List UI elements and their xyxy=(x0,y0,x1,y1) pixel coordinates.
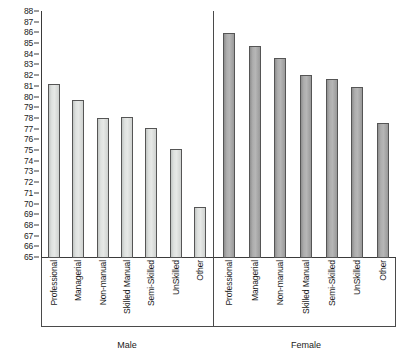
bar xyxy=(97,118,109,258)
category-label: Professional xyxy=(225,260,234,306)
y-axis-tick-label: 72 xyxy=(24,178,33,187)
category-label-slot: Other xyxy=(188,258,212,326)
bar xyxy=(121,117,133,258)
y-axis-tick-mark xyxy=(34,107,39,108)
bar xyxy=(72,100,84,258)
bar-slot xyxy=(293,11,319,258)
category-label: UnSkilled xyxy=(353,260,362,295)
category-label: Other xyxy=(379,260,388,281)
bar xyxy=(326,79,338,258)
category-label: Skilled Manual xyxy=(123,260,132,314)
y-axis-tick-mark xyxy=(34,117,39,118)
y-axis-tick-label: 78 xyxy=(24,114,33,123)
bar xyxy=(48,84,60,258)
bar-slot xyxy=(319,11,345,258)
y-axis-tick-label: 81 xyxy=(24,82,33,91)
bar xyxy=(351,87,363,258)
y-axis-tick-label: 85 xyxy=(24,39,33,48)
y-axis-tick-mark xyxy=(34,203,39,204)
bar xyxy=(377,123,389,258)
y-axis-tick-mark xyxy=(34,192,39,193)
bar-group-female xyxy=(216,11,396,258)
bar-slot xyxy=(188,11,212,258)
category-label-slot: Non-manual xyxy=(91,258,115,326)
category-label-slot: Skilled Manual xyxy=(115,258,139,326)
bar-slot xyxy=(139,11,163,258)
bar-slot xyxy=(267,11,293,258)
bar-slot xyxy=(370,11,396,258)
bar-slot xyxy=(163,11,187,258)
y-axis-tick-mark xyxy=(34,182,39,183)
y-axis-tick-label: 86 xyxy=(24,28,33,37)
y-axis-tick-mark xyxy=(34,224,39,225)
category-label-slot: Managerial xyxy=(66,258,90,326)
label-frame-bottom xyxy=(41,326,396,327)
category-labels-female: ProfessionalManagerialNon-manualSkilled … xyxy=(216,258,396,326)
category-label: Non-manual xyxy=(276,260,285,305)
plot-panel-male xyxy=(42,11,212,258)
y-axis-tick-mark xyxy=(34,128,39,129)
y-axis: 8887868584838281807978777675747372717069… xyxy=(0,0,42,268)
y-axis-tick-label: 75 xyxy=(24,146,33,155)
category-label: Managerial xyxy=(250,260,259,301)
category-label-slot: Professional xyxy=(216,258,242,326)
bar xyxy=(223,33,235,258)
bar-slot xyxy=(91,11,115,258)
y-axis-tick-label: 73 xyxy=(24,167,33,176)
category-label: Professional xyxy=(50,260,59,306)
y-axis-tick-mark xyxy=(34,246,39,247)
bar-slot xyxy=(42,11,66,258)
category-label-slot: UnSkilled xyxy=(345,258,371,326)
y-axis-tick-label: 70 xyxy=(24,199,33,208)
category-label: Managerial xyxy=(74,260,83,301)
y-axis-tick-mark xyxy=(34,139,39,140)
bar-slot xyxy=(66,11,90,258)
y-axis-tick-mark xyxy=(34,214,39,215)
y-axis-tick-mark xyxy=(34,64,39,65)
y-axis-tick-label: 71 xyxy=(24,189,33,198)
bar xyxy=(170,149,182,258)
bar xyxy=(249,46,261,258)
category-label-slot: Semi-Skilled xyxy=(139,258,163,326)
y-axis-tick-label: 80 xyxy=(24,92,33,101)
y-axis-tick-label: 77 xyxy=(24,124,33,133)
bar-group-male xyxy=(42,11,212,258)
category-label-slot: Other xyxy=(370,258,396,326)
y-axis-tick-mark xyxy=(34,160,39,161)
category-label: Semi-Skilled xyxy=(327,260,336,306)
y-axis-tick-label: 88 xyxy=(24,7,33,16)
y-axis-tick-label: 74 xyxy=(24,156,33,165)
group-title-female: Female xyxy=(216,340,396,350)
bar xyxy=(274,58,286,258)
y-axis-tick-mark xyxy=(34,11,39,12)
y-axis-tick-mark xyxy=(34,32,39,33)
category-label: UnSkilled xyxy=(171,260,180,295)
y-axis-tick-mark xyxy=(34,43,39,44)
y-axis-tick-label: 65 xyxy=(24,253,33,262)
category-label: Semi-Skilled xyxy=(147,260,156,306)
category-label-slot: UnSkilled xyxy=(163,258,187,326)
bar xyxy=(145,128,157,258)
y-axis-tick-label: 79 xyxy=(24,103,33,112)
bar-chart: 8887868584838281807978777675747372717069… xyxy=(0,0,411,364)
category-label-slot: Skilled Manual xyxy=(293,258,319,326)
category-label-slot: Non-manual xyxy=(267,258,293,326)
bar-slot xyxy=(345,11,371,258)
y-axis-tick-label: 68 xyxy=(24,221,33,230)
category-label: Other xyxy=(196,260,205,281)
y-axis-tick-mark xyxy=(34,171,39,172)
y-axis-tick-mark xyxy=(34,257,39,258)
y-axis-tick-label: 82 xyxy=(24,71,33,80)
y-axis-tick-mark xyxy=(34,75,39,76)
category-label-slot: Managerial xyxy=(242,258,268,326)
plot-panel-female xyxy=(216,11,396,258)
y-axis-tick-mark xyxy=(34,85,39,86)
y-axis-tick-label: 83 xyxy=(24,60,33,69)
y-axis-tick-label: 84 xyxy=(24,50,33,59)
y-axis-tick-mark xyxy=(34,96,39,97)
group-title-male: Male xyxy=(42,340,212,350)
panel-divider xyxy=(213,11,214,326)
y-axis-tick-mark xyxy=(34,21,39,22)
y-axis-tick-label: 87 xyxy=(24,17,33,26)
y-axis-tick-mark xyxy=(34,235,39,236)
